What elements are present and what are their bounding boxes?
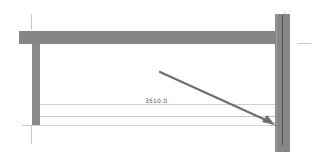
- arrow-icon: [0, 0, 327, 160]
- cad-canvas[interactable]: 3510.0: [0, 0, 327, 160]
